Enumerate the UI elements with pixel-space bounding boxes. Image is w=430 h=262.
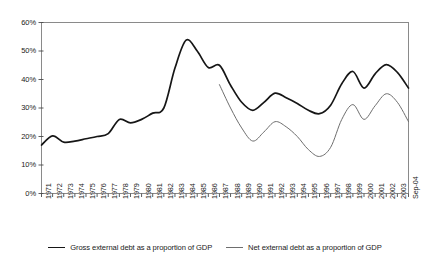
plot-area bbox=[0, 0, 430, 262]
legend-line-gross-icon bbox=[48, 247, 65, 248]
series-line-gross-external-debt bbox=[42, 40, 409, 145]
legend-entry-gross: Gross external debt as a proportion of G… bbox=[48, 243, 212, 252]
chart-legend: Gross external debt as a proportion of G… bbox=[0, 238, 430, 256]
legend-label-net: Net external debt as a proportion of GDP bbox=[248, 243, 382, 252]
plot-frame bbox=[42, 23, 409, 194]
legend-label-gross: Gross external debt as a proportion of G… bbox=[70, 243, 212, 252]
series-line-net-external-debt bbox=[219, 85, 408, 157]
legend-line-net-icon bbox=[226, 247, 243, 248]
legend-entry-net: Net external debt as a proportion of GDP bbox=[226, 243, 382, 252]
external-debt-chart-figure: 0%10%20%30%40%50%60% 1971197219731974197… bbox=[0, 0, 430, 262]
